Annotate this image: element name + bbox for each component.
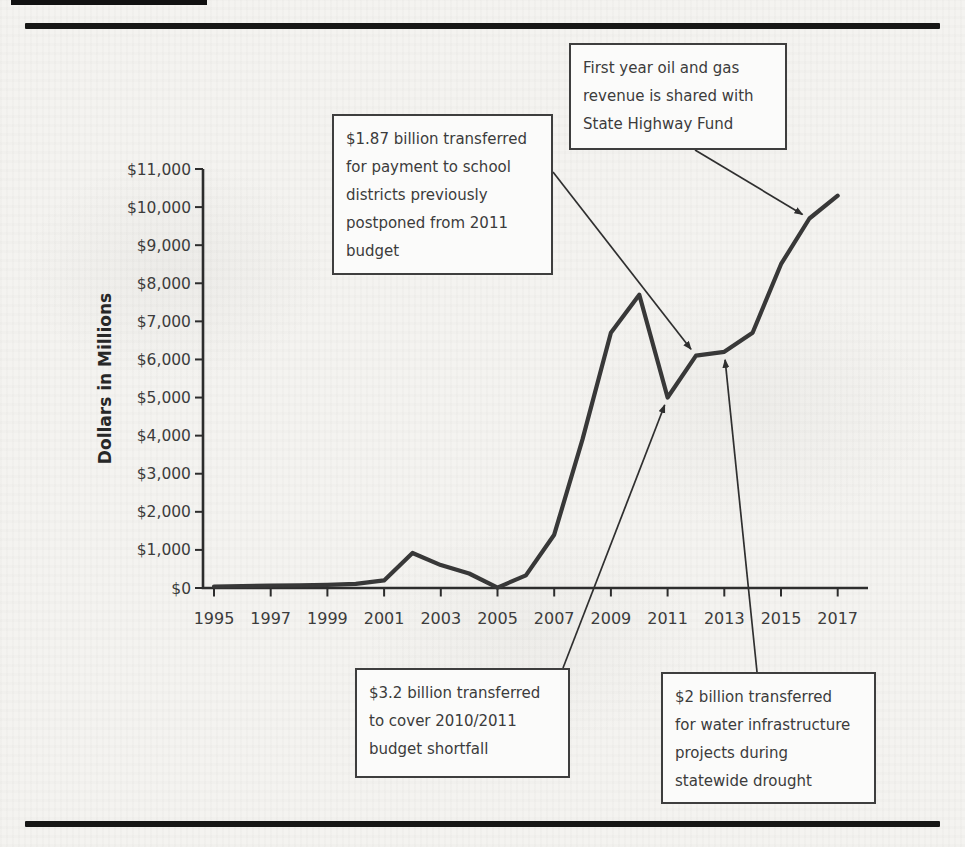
arrow-budget-shortfall xyxy=(563,405,665,668)
y-tick-label: $0 xyxy=(171,580,191,598)
y-tick-label: $5,000 xyxy=(137,389,191,407)
y-tick-label: $8,000 xyxy=(137,275,191,293)
x-tick-label: 2003 xyxy=(420,609,461,628)
arrow-highway-fund xyxy=(695,150,803,214)
y-tick-label: $1,000 xyxy=(137,541,191,559)
x-tick-label: 2007 xyxy=(534,609,575,628)
x-tick-label: 2015 xyxy=(761,609,802,628)
x-tick-label: 1995 xyxy=(194,609,235,628)
x-tick-label: 2001 xyxy=(364,609,405,628)
y-axis-title-text: Dollars in Millions xyxy=(95,293,115,464)
annotation-budget-shortfall: $3.2 billion transferred to cover 2010/2… xyxy=(355,668,570,778)
arrow-school-districts xyxy=(553,172,691,349)
annotation-highway-fund: First year oil and gas revenue is shared… xyxy=(569,43,787,150)
y-tick-label: $3,000 xyxy=(137,465,191,483)
x-axis-ticks: 1995199719992001200320052007200920112013… xyxy=(194,588,858,628)
x-tick-label: 2009 xyxy=(591,609,632,628)
x-tick-label: 2005 xyxy=(477,609,518,628)
y-tick-label: $7,000 xyxy=(137,313,191,331)
bottom-rule xyxy=(25,821,940,827)
scanned-report-page: $0$1,000$2,000$3,000$4,000$5,000$6,000$7… xyxy=(0,0,965,847)
y-axis-ticks: $0$1,000$2,000$3,000$4,000$5,000$6,000$7… xyxy=(127,161,203,598)
y-tick-label: $6,000 xyxy=(137,351,191,369)
x-tick-label: 2011 xyxy=(647,609,688,628)
x-tick-label: 1997 xyxy=(250,609,291,628)
annotation-school-districts: $1.87 billion transferred for payment to… xyxy=(332,114,553,275)
y-tick-label: $9,000 xyxy=(137,237,191,255)
x-tick-label: 2013 xyxy=(704,609,745,628)
cropped-header-bar xyxy=(11,0,207,5)
y-tick-label: $2,000 xyxy=(137,503,191,521)
y-tick-label: $4,000 xyxy=(137,427,191,445)
annotation-water-projects: $2 billion transferred for water infrast… xyxy=(661,672,876,804)
x-tick-label: 1999 xyxy=(307,609,348,628)
y-axis-title: Dollars in Millions xyxy=(95,293,115,464)
top-rule xyxy=(25,23,940,29)
y-tick-label: $10,000 xyxy=(127,199,191,217)
y-tick-label: $11,000 xyxy=(127,161,191,179)
x-tick-label: 2017 xyxy=(817,609,858,628)
